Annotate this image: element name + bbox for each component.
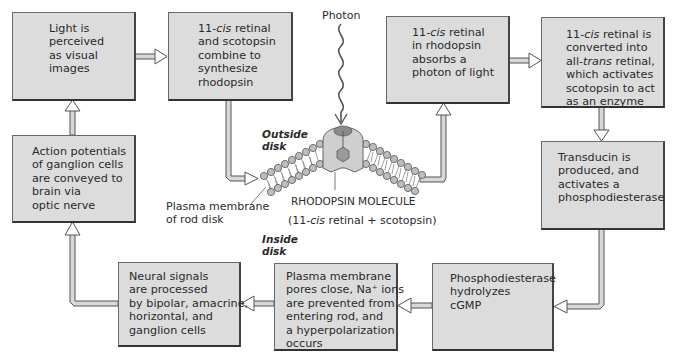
box-text-line: Action potentials [32, 145, 126, 158]
arrow-transducin-to-hydrolyzes [554, 229, 604, 313]
arrow-absorbs-to-converted [509, 53, 541, 68]
box-text-line: synthesize [198, 62, 283, 75]
outside-disk-label-line: disk [262, 140, 308, 152]
box-text-line: 11-cis retinal [198, 22, 283, 35]
box-text-line: photon of light [412, 66, 500, 79]
box-text-line: of ganglion cells [32, 158, 126, 171]
box-text-line: activates a [558, 178, 655, 191]
box-text-line: pores close, Na⁺ ions [286, 283, 388, 296]
outside-disk-label-line: Outside [262, 128, 308, 140]
box-action-potentials: Action potentials of ganglion cells are … [12, 135, 136, 223]
box-absorbs-photon: 11-cis retinal in rhodopsin absorbs a ph… [386, 16, 510, 104]
arrow-converted-to-transducin [594, 107, 609, 141]
box-text-line: hydrolyzes [450, 285, 544, 298]
box-text-line: brain via [32, 185, 126, 198]
arrow-membrane-to-absorbs [420, 103, 451, 182]
box-text-line: are processed [129, 283, 231, 296]
box-text-line: in rhodopsin [412, 39, 500, 52]
box-text-line: converted into [566, 41, 655, 54]
box-text-line: as an enzyme [566, 95, 655, 108]
box-text-line: ganglion cells [129, 324, 231, 337]
arrow-hydrolyzes-to-pores [398, 298, 432, 313]
box-text-line: optic nerve [32, 199, 126, 212]
box-text-line: as visual [49, 49, 126, 62]
box-transducin: Transducin is produced, and activates a … [541, 141, 665, 230]
box-text-line: occurs [286, 337, 388, 350]
box-hydrolyzes-cgmp: Phosphodiesterase hydrolyzes cGMP [432, 263, 554, 351]
box-text-line: Transducin is [558, 151, 655, 164]
box-synthesize-rhodopsin: 11-cis retinal and scotopsin combine to … [168, 12, 293, 101]
box-text-line: Phosphodiesterase [450, 272, 544, 285]
box-text-line: produced, and [558, 164, 655, 177]
photon-label: Photon [322, 9, 360, 22]
photon-wave-icon [335, 24, 347, 124]
box-text-line: 11-cis retinal [412, 26, 500, 39]
rhodopsin-formula-label: (11-cis retinal + scotopsin) [288, 214, 437, 227]
box-text-line: images [49, 62, 126, 75]
plasma-membrane-label-line: Plasma membrane [166, 200, 269, 213]
box-text-line: phosphodiesterase [558, 191, 655, 204]
box-text-line: perceived [49, 35, 126, 48]
inside-disk-label-line: disk [262, 245, 298, 257]
box-text-line: scotopsin to act [566, 82, 655, 95]
box-text-line: Neural signals [129, 270, 231, 283]
box-text-line: and scotopsin [198, 35, 283, 48]
box-text-line: horizontal, and [129, 310, 231, 323]
inside-disk-label: Inside disk [262, 233, 298, 257]
box-text-line: all-trans retinal, [566, 55, 655, 68]
rhodopsin-molecule-label: RHODOPSIN MOLECULE [291, 195, 415, 207]
plasma-membrane-label: Plasma membrane of rod disk [166, 200, 269, 226]
arrow-action-to-light [65, 100, 80, 135]
box-text-line: are prevented from [286, 297, 388, 310]
arrow-neural-to-action [65, 222, 118, 306]
box-text-line: combine to [198, 49, 283, 62]
box-text-line: Plasma membrane [286, 270, 388, 283]
box-text-line: entering rod, and [286, 310, 388, 323]
arrow-synthesize-to-membrane [226, 100, 258, 185]
arrow-light-to-synthesize [135, 49, 167, 64]
box-text-line: a hyperpolarization [286, 324, 388, 337]
outside-disk-label: Outside disk [262, 128, 308, 152]
box-text-line: rhodopsin [198, 76, 283, 89]
box-light-perceived: Light is perceived as visual images [12, 12, 136, 101]
box-text-line: absorbs a [412, 53, 500, 66]
box-text-line: by bipolar, amacrine, [129, 297, 231, 310]
box-text-line: which activates [566, 68, 655, 81]
box-converted-all-trans: 11-cis retinal is converted into all-tra… [541, 17, 665, 108]
plasma-membrane-label-line: of rod disk [166, 213, 269, 226]
box-text-line: are conveyed to [32, 172, 126, 185]
box-pores-close: Plasma membrane pores close, Na⁺ ions ar… [274, 263, 398, 351]
box-text-line: Light is [49, 22, 126, 35]
box-neural-signals: Neural signals are processed by bipolar,… [118, 262, 241, 347]
box-text-line: cGMP [450, 299, 544, 312]
inside-disk-label-line: Inside [262, 233, 298, 245]
box-text-line: 11-cis retinal is [566, 28, 655, 41]
